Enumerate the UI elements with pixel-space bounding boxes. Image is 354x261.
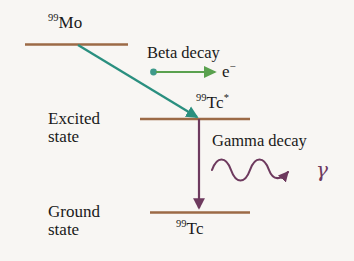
beta-emission-origin-dot bbox=[150, 69, 157, 76]
electron-charge: − bbox=[230, 60, 236, 72]
nuclide-label-tc99: 99Tc bbox=[176, 218, 204, 238]
state-label-excited: Excited state bbox=[48, 110, 100, 146]
state-label-ground-line1: Ground bbox=[48, 202, 100, 221]
nuclide-label-mo99: 99Mo bbox=[48, 12, 83, 32]
excited-state-marker: * bbox=[224, 92, 229, 103]
electron-symbol: e bbox=[222, 62, 230, 81]
gamma-photon-wave bbox=[212, 160, 288, 181]
state-label-excited-line2: state bbox=[48, 128, 100, 146]
element-symbol-tc99m: Tc bbox=[207, 93, 224, 112]
element-symbol-tc99: Tc bbox=[187, 219, 204, 238]
beta-decay-label: Beta decay bbox=[147, 44, 220, 61]
decay-scheme-figure: 99Mo Beta decay e− 99Tc* Excited state G… bbox=[0, 0, 354, 261]
mass-number-mo99: 99 bbox=[48, 12, 59, 23]
mass-number-tc99: 99 bbox=[176, 218, 187, 229]
nuclide-label-tc99m: 99Tc* bbox=[196, 92, 229, 112]
state-label-excited-line1: Excited bbox=[48, 109, 100, 128]
state-label-ground-line2: state bbox=[48, 221, 100, 239]
gamma-decay-label: Gamma decay bbox=[212, 132, 307, 149]
gamma-particle-label: γ bbox=[316, 158, 328, 182]
state-label-ground: Ground state bbox=[48, 203, 100, 239]
mass-number-tc99m: 99 bbox=[196, 92, 207, 103]
electron-particle-label: e− bbox=[222, 61, 236, 81]
element-symbol-mo99: Mo bbox=[59, 13, 83, 32]
